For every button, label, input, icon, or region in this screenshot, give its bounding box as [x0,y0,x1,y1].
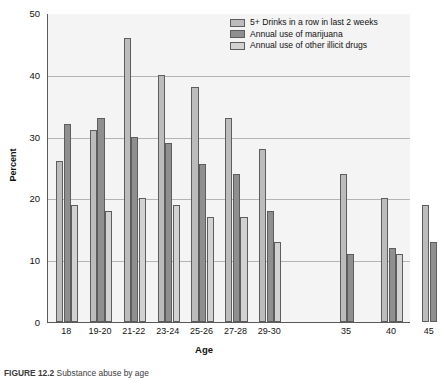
bar-45-series-1[interactable] [430,242,437,322]
bar-29-30-series-0[interactable] [259,149,266,322]
bar-23-24-series-0[interactable] [158,75,165,322]
y-tick-label-0: 0 [8,317,40,328]
bar-group-21-22 [124,14,146,322]
bar-group-40 [381,14,403,322]
x-tick-label-29-30: 29-30 [239,326,299,336]
bar-35-series-1[interactable] [347,254,354,322]
y-tick-label-30: 30 [8,132,40,143]
bar-group-18 [56,14,78,322]
legend-item-1[interactable]: Annual use of marijuana [230,29,378,41]
bar-group-25-26 [191,14,213,322]
legend-label-1: Annual use of marijuana [250,29,343,41]
y-tick-label-20: 20 [8,193,40,204]
y-tick-label-50: 50 [8,8,40,19]
bar-40-series-2[interactable] [396,254,403,322]
y-axis-title: Percent [8,135,18,195]
bar-18-series-1[interactable] [64,124,71,322]
legend-label-2: Annual use of other illicit drugs [250,40,367,52]
y-tick-label-10: 10 [8,255,40,266]
x-axis-title: Age [0,344,418,355]
bar-19-20-series-1[interactable] [97,118,104,322]
bar-27-28-series-1[interactable] [233,174,240,322]
bar-25-26-series-2[interactable] [207,217,214,322]
bar-group-19-20 [90,14,112,322]
caption-text: Substance abuse by age [57,368,149,378]
legend: 5+ Drinks in a row in last 2 weeks Annua… [227,14,382,55]
bar-group-35 [340,14,362,322]
bar-group-27-28 [225,14,247,322]
legend-item-0[interactable]: 5+ Drinks in a row in last 2 weeks [230,17,378,29]
x-axis-title-text: Age [195,344,213,355]
bar-19-20-series-2[interactable] [105,211,112,322]
bar-21-22-series-2[interactable] [139,198,146,322]
bar-group-29-30 [259,14,281,322]
plot-area [47,14,410,323]
bar-45-series-0[interactable] [422,205,429,322]
bar-40-series-0[interactable] [381,198,388,322]
figure-caption: FIGURE 12.2 Substance abuse by age [4,368,149,378]
bar-27-28-series-2[interactable] [240,217,247,322]
bar-21-22-series-1[interactable] [131,137,138,322]
legend-swatch-icon-2 [230,42,245,50]
legend-item-2[interactable]: Annual use of other illicit drugs [230,40,378,52]
bar-29-30-series-2[interactable] [274,242,281,322]
bar-23-24-series-1[interactable] [165,143,172,322]
bar-40-series-1[interactable] [389,248,396,322]
caption-figure-number: FIGURE 12.2 [4,368,54,378]
bar-35-series-0[interactable] [340,174,347,322]
bar-group-45 [422,14,441,322]
y-tick-label-40: 40 [8,70,40,81]
bar-18-series-2[interactable] [71,205,78,322]
bar-group-23-24 [158,14,180,322]
bar-21-22-series-0[interactable] [124,38,131,322]
bar-23-24-series-2[interactable] [173,205,180,322]
legend-swatch-icon-0 [230,19,245,27]
bar-19-20-series-0[interactable] [90,130,97,322]
bar-25-26-series-0[interactable] [191,87,198,322]
x-tick-label-45: 45 [399,326,441,336]
bar-series-container [48,14,410,322]
bar-29-30-series-1[interactable] [267,211,274,322]
legend-label-0: 5+ Drinks in a row in last 2 weeks [250,17,378,29]
bar-18-series-0[interactable] [56,161,63,322]
bar-25-26-series-1[interactable] [199,164,206,322]
bar-27-28-series-0[interactable] [225,118,232,322]
legend-swatch-icon-1 [230,30,245,38]
